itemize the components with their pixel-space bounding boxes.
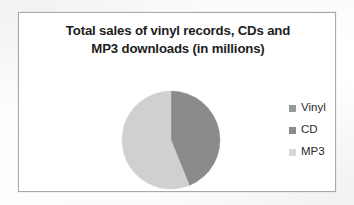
pie-plot-area bbox=[19, 61, 269, 191]
legend-swatch-cd bbox=[289, 127, 296, 134]
chart-frame: Total sales of vinyl records, CDs and MP… bbox=[18, 12, 336, 192]
legend-label-cd: CD bbox=[301, 124, 318, 136]
legend-swatch-vinyl bbox=[289, 105, 296, 112]
pie-slice-group bbox=[122, 91, 220, 189]
chart-title-line-2: MP3 downloads (in millions) bbox=[27, 40, 329, 58]
legend-item-mp3[interactable]: MP3 bbox=[289, 141, 354, 163]
legend-item-cd[interactable]: CD bbox=[289, 119, 354, 141]
legend-label-vinyl: Vinyl bbox=[301, 102, 326, 114]
pie-chart bbox=[19, 61, 269, 191]
chart-legend: Vinyl CD MP3 bbox=[289, 97, 354, 163]
legend-label-mp3: MP3 bbox=[301, 146, 325, 158]
legend-item-vinyl[interactable]: Vinyl bbox=[289, 97, 354, 119]
legend-swatch-mp3 bbox=[289, 149, 296, 156]
chart-title-line-1: Total sales of vinyl records, CDs and bbox=[27, 22, 329, 40]
chart-title: Total sales of vinyl records, CDs and MP… bbox=[27, 22, 329, 57]
